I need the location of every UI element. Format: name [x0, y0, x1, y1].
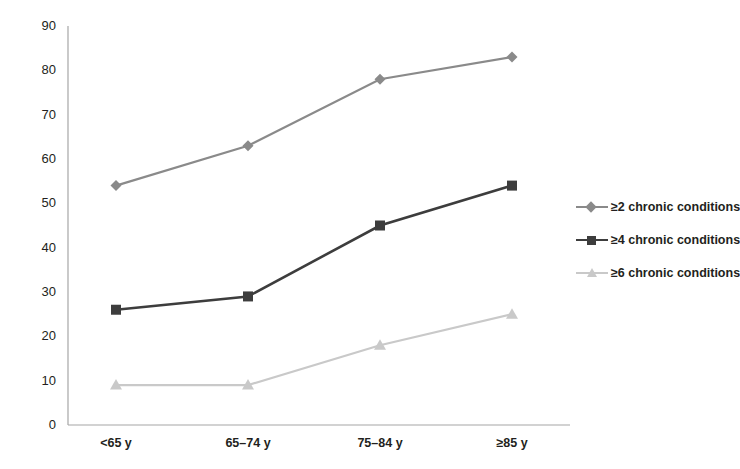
data-point-diamond-icon: [243, 140, 254, 151]
chart-legend: ≥2 chronic conditions ≥4 chronic conditi…: [576, 190, 739, 289]
y-axis-tick-label: 40: [20, 241, 56, 254]
legend-key-square-icon: [576, 233, 608, 247]
series-line: [116, 186, 512, 310]
data-point-square-icon: [243, 291, 253, 301]
data-point-diamond-icon: [111, 180, 122, 191]
data-point-square-icon: [111, 305, 121, 315]
legend-item-2[interactable]: ≥6 chronic conditions: [576, 256, 739, 289]
y-axis-tick-label: 10: [20, 374, 56, 387]
y-axis-tick-label: 90: [20, 19, 56, 32]
data-point-square-icon: [507, 181, 517, 191]
y-axis-tick-label: 60: [20, 152, 56, 165]
legend-label-2: ≥6 chronic conditions: [608, 266, 740, 280]
x-axis-tick-label: 75–84 y: [325, 437, 435, 450]
data-point-triangle-icon: [506, 308, 518, 319]
y-axis-tick-label: 50: [20, 196, 56, 209]
series-1: [111, 52, 518, 192]
legend-key-triangle-icon: [576, 266, 608, 280]
data-point-diamond-icon: [375, 74, 386, 85]
y-axis-tick-label: 80: [20, 63, 56, 76]
series-2: [111, 181, 517, 315]
legend-key-diamond-icon: [576, 200, 608, 214]
y-axis-tick-label: 20: [20, 329, 56, 342]
data-point-diamond-icon: [507, 52, 518, 63]
series-line: [116, 57, 512, 186]
data-point-square-icon: [375, 221, 385, 231]
series-layer: [110, 52, 518, 390]
x-axis-tick-label: <65 y: [61, 437, 171, 450]
axis-lines: [68, 26, 570, 425]
x-axis-tick-label: 65–74 y: [193, 437, 303, 450]
y-axis-tick-label: 0: [20, 418, 56, 431]
legend-item-0[interactable]: ≥2 chronic conditions: [576, 190, 739, 223]
legend-item-1[interactable]: ≥4 chronic conditions: [576, 223, 739, 256]
legend-label-1: ≥4 chronic conditions: [608, 233, 740, 247]
y-axis-tick-label: 30: [20, 285, 56, 298]
legend-label-0: ≥2 chronic conditions: [608, 200, 740, 214]
series-line: [116, 314, 512, 385]
y-axis-tick-label: 70: [20, 108, 56, 121]
series-3: [110, 308, 518, 389]
x-axis-tick-label: ≥85 y: [457, 437, 567, 450]
